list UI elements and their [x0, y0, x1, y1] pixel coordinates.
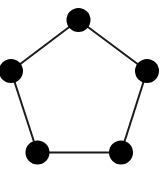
pentagon-cycle-graph: [0, 0, 165, 170]
node-right: [135, 59, 159, 83]
node-bottom-left: [26, 141, 50, 165]
edges-group: [11, 20, 147, 153]
edge-left-top: [11, 20, 79, 71]
node-bottom-right: [109, 141, 133, 165]
edge-top-right: [79, 20, 148, 71]
edge-bottom-left-left: [11, 71, 38, 153]
nodes-group: [0, 8, 159, 165]
edge-right-bottom-right: [121, 71, 147, 153]
node-left: [0, 59, 23, 83]
node-top: [67, 8, 91, 32]
